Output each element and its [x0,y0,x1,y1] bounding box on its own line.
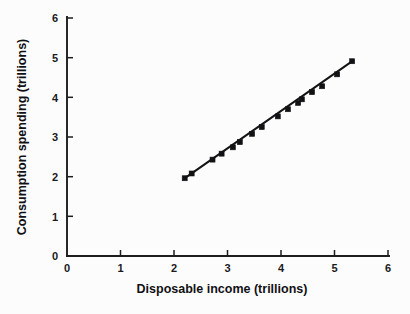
x-axis-title: Disposable income (trillions) [137,282,308,296]
data-point [259,125,264,130]
x-tick-label-6: 6 [385,262,391,274]
data-point [250,131,255,136]
y-tick-label-5: 5 [52,52,58,64]
data-point [320,84,325,89]
y-tick-label-1: 1 [52,211,58,223]
y-tick-label-6: 6 [52,12,58,24]
data-point [210,157,215,162]
x-tick-label-3: 3 [224,262,230,274]
data-point [335,72,340,77]
plot-background [0,0,410,314]
chart-figure: 6 5 4 3 2 1 0 Consumption spending (tril… [0,0,410,314]
data-point [299,97,304,102]
data-point [275,114,280,119]
x-tick-label-4: 4 [278,262,285,274]
x-tick-label-2: 2 [171,262,177,274]
x-tick-label-5: 5 [331,262,337,274]
data-point [182,176,187,181]
y-axis-title: Consumption spending (trillions) [15,39,29,236]
y-tick-label-3: 3 [52,131,58,143]
y-tick-label-0: 0 [52,250,58,262]
data-point [219,151,224,156]
data-point [350,59,355,64]
scatter-plot-svg: 6 5 4 3 2 1 0 Consumption spending (tril… [0,0,410,314]
data-point [189,171,194,176]
data-point [285,107,290,112]
data-point [310,90,315,95]
x-tick-label-1: 1 [117,262,123,274]
y-tick-label-2: 2 [52,171,58,183]
y-tick-label-4: 4 [52,92,59,104]
x-tick-label-0: 0 [64,262,70,274]
data-point [230,145,235,150]
data-point [237,140,242,145]
